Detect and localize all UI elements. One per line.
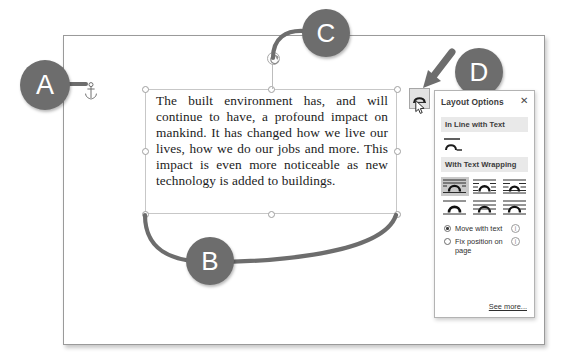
radio-fix-position-on-page[interactable]: Fix position on page i	[444, 237, 534, 256]
section-heading-inline: In Line with Text	[441, 117, 528, 132]
handle-top-left[interactable]	[142, 86, 149, 93]
info-icon-fix-position[interactable]: i	[511, 237, 520, 246]
rotate-icon	[268, 52, 281, 70]
handle-middle-left[interactable]	[142, 148, 149, 155]
position-options: Move with text i Fix position on page i	[444, 224, 534, 256]
radio-indicator-move-with-text[interactable]	[444, 225, 451, 232]
wrap-option-in-line-with-text[interactable]	[443, 137, 473, 153]
wrap-option-top-and-bottom[interactable]	[441, 198, 469, 217]
wrap-option-square[interactable]	[441, 177, 469, 196]
radio-move-with-text[interactable]: Move with text i	[444, 224, 534, 234]
handle-bottom-right[interactable]	[394, 211, 401, 218]
wrap-option-in-front-of-text[interactable]	[500, 198, 528, 217]
handle-middle-right[interactable]	[394, 148, 401, 155]
section-heading-wrapping: With Text Wrapping	[441, 157, 528, 172]
callout-badge-c: C	[302, 9, 350, 57]
text-box-body: The built environment has, and will cont…	[156, 93, 388, 190]
callout-badge-a: A	[20, 60, 70, 110]
panel-header: Layout Options ✕	[435, 91, 534, 113]
callout-badge-d: D	[455, 48, 503, 96]
close-icon[interactable]: ✕	[520, 96, 528, 106]
handle-top-right[interactable]	[394, 86, 401, 93]
wrapping-options-grid	[441, 177, 528, 217]
wrap-option-tight[interactable]	[471, 177, 499, 196]
mouse-pointer-icon	[415, 100, 426, 119]
handle-bottom-center[interactable]	[268, 211, 275, 218]
handle-top-center[interactable]	[268, 86, 275, 93]
handle-bottom-left[interactable]	[142, 211, 149, 218]
layout-options-panel[interactable]: Layout Options ✕ In Line with Text With …	[434, 90, 535, 318]
wrap-option-behind-text[interactable]	[471, 198, 499, 217]
panel-title: Layout Options	[441, 97, 504, 107]
radio-label-move-with-text: Move with text	[455, 224, 509, 234]
see-more-link[interactable]: See more...	[489, 302, 527, 311]
callout-badge-b: B	[186, 237, 234, 285]
info-icon-move-with-text[interactable]: i	[511, 224, 520, 233]
radio-label-fix-position: Fix position on page	[455, 237, 509, 256]
screenshot-root: The built environment has, and will cont…	[0, 0, 582, 363]
radio-indicator-fix-position[interactable]	[444, 238, 451, 245]
wrap-option-through[interactable]	[500, 177, 528, 196]
